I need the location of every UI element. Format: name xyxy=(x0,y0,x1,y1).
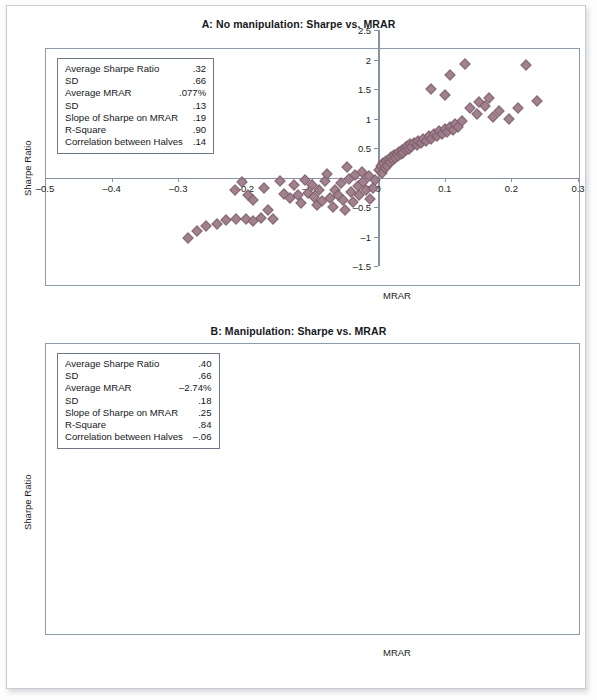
y-tick xyxy=(374,89,378,90)
stats-value: .18 xyxy=(198,395,211,407)
stats-label: Average Sharpe Ratio xyxy=(65,358,169,370)
y-tick-label: –1 xyxy=(361,231,372,242)
stats-label: Average MRAR xyxy=(65,382,141,394)
y-tick xyxy=(374,30,378,31)
stats-row: Correlation between Halves.14 xyxy=(65,136,206,148)
stats-label: SD xyxy=(65,370,88,382)
stats-label: SD xyxy=(65,75,88,87)
stats-label: SD xyxy=(65,395,88,407)
stats-row: Correlation between Halves–.06 xyxy=(65,431,212,443)
panel-b-y-axis-title: Sharpe Ratio xyxy=(22,475,33,530)
panel-b-stats-box: Average Sharpe Ratio.40SD.66Average MRAR… xyxy=(57,353,220,449)
y-tick-label: –1.5 xyxy=(353,261,372,272)
data-point xyxy=(520,60,531,71)
data-point xyxy=(342,161,353,172)
stats-value: .19 xyxy=(193,112,206,124)
data-point xyxy=(439,89,450,100)
stats-row: Average MRAR.077% xyxy=(65,87,206,99)
data-point xyxy=(267,213,278,224)
x-tick xyxy=(112,178,113,182)
stats-label: Correlation between Halves xyxy=(65,431,193,443)
stats-row: SD.18 xyxy=(65,395,212,407)
y-tick xyxy=(374,60,378,61)
stats-row: Average Sharpe Ratio.40 xyxy=(65,358,212,370)
x-tick-label: 0.2 xyxy=(505,183,518,194)
stats-value: –2.74% xyxy=(179,382,212,394)
stats-value: .25 xyxy=(198,407,211,419)
data-point xyxy=(426,83,437,94)
data-point xyxy=(512,102,523,113)
y-axis-line xyxy=(378,30,379,266)
stats-row: Average Sharpe Ratio.32 xyxy=(65,63,206,75)
stats-value: .32 xyxy=(193,63,206,75)
y-tick-label: 1.5 xyxy=(358,84,371,95)
x-tick-label: 0.1 xyxy=(438,183,451,194)
x-tick xyxy=(45,178,46,182)
y-tick-label: 2 xyxy=(366,54,371,65)
stats-label: Correlation between Halves xyxy=(65,136,193,148)
y-tick-label: 2.5 xyxy=(358,25,371,36)
stats-row: Average MRAR–2.74% xyxy=(65,382,212,394)
stats-label: SD xyxy=(65,100,88,112)
stats-row: R-Square.84 xyxy=(65,419,212,431)
stats-value: .40 xyxy=(198,358,211,370)
data-point xyxy=(444,69,455,80)
stats-row: Slope of Sharpe on MRAR.25 xyxy=(65,407,212,419)
x-tick xyxy=(178,178,179,182)
data-point xyxy=(531,95,542,106)
stats-label: Slope of Sharpe on MRAR xyxy=(65,407,188,419)
data-point xyxy=(295,198,306,209)
stats-value: .90 xyxy=(193,124,206,136)
y-tick-label: 0.5 xyxy=(358,143,371,154)
stats-row: Slope of Sharpe on MRAR.19 xyxy=(65,112,206,124)
y-tick xyxy=(374,237,378,238)
data-point xyxy=(503,113,514,124)
stats-value: .13 xyxy=(193,100,206,112)
x-tick-label: –0.4 xyxy=(102,183,121,194)
stats-row: R-Square.90 xyxy=(65,124,206,136)
stats-label: R-Square xyxy=(65,419,116,431)
stats-value: .077% xyxy=(179,87,206,99)
panel-b: B: Manipulation: Sharpe vs. MRAR –0.5–0.… xyxy=(0,325,597,675)
data-point xyxy=(258,182,269,193)
stats-label: Slope of Sharpe on MRAR xyxy=(65,112,188,124)
panel-b-x-axis-title: MRAR xyxy=(383,647,411,658)
data-point xyxy=(338,194,349,205)
stats-row: SD.13 xyxy=(65,100,206,112)
stats-row: SD.66 xyxy=(65,75,206,87)
x-tick xyxy=(511,178,512,182)
data-point xyxy=(339,204,350,215)
data-point xyxy=(183,232,194,243)
x-tick-label: –0.5 xyxy=(36,183,55,194)
x-tick-label: –0.3 xyxy=(169,183,188,194)
stats-label: Average Sharpe Ratio xyxy=(65,63,169,75)
stats-value: .66 xyxy=(198,370,211,382)
stats-label: Average MRAR xyxy=(65,87,141,99)
x-tick xyxy=(445,178,446,182)
panel-a-x-axis-title: MRAR xyxy=(383,290,411,301)
stats-row: SD.66 xyxy=(65,370,212,382)
panel-a-stats-box: Average Sharpe Ratio.32SD.66Average MRAR… xyxy=(57,58,214,154)
data-point xyxy=(459,59,470,70)
x-tick-label: 0.3 xyxy=(571,183,584,194)
y-tick xyxy=(374,207,378,208)
stats-value: –.06 xyxy=(193,431,212,443)
x-tick xyxy=(578,178,579,182)
stats-value: .66 xyxy=(193,75,206,87)
panel-a: A: No manipulation: Sharpe vs. MRAR –0.5… xyxy=(0,18,597,318)
y-tick xyxy=(374,119,378,120)
stats-label: R-Square xyxy=(65,124,116,136)
y-tick xyxy=(374,148,378,149)
y-tick-label: 1 xyxy=(366,113,371,124)
y-tick xyxy=(374,266,378,267)
stats-value: .14 xyxy=(193,136,206,148)
stats-value: .84 xyxy=(198,419,211,431)
panel-a-y-axis-title: Sharpe Ratio xyxy=(22,141,33,196)
figure-page: A: No manipulation: Sharpe vs. MRAR –0.5… xyxy=(0,0,597,700)
